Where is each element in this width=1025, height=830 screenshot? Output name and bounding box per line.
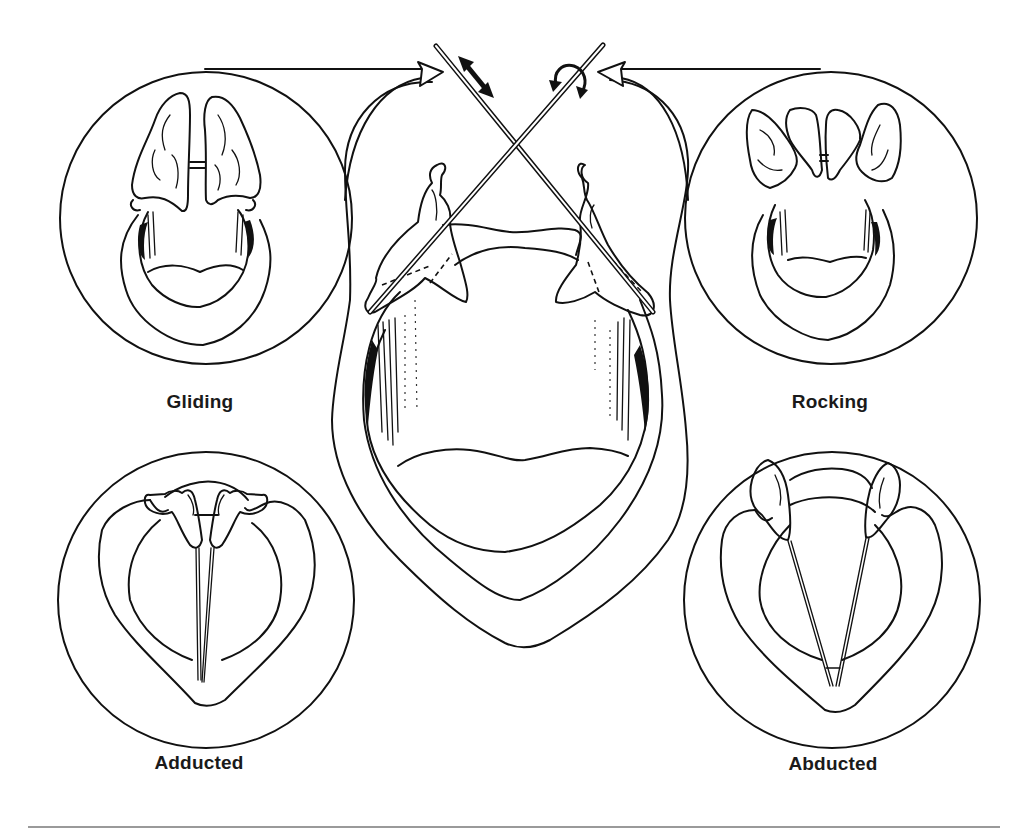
inset-abducted xyxy=(684,452,980,748)
inset-rocking xyxy=(685,72,977,364)
label-gliding: Gliding xyxy=(167,391,234,413)
inset-adducted xyxy=(58,452,354,748)
connector-arrows xyxy=(205,62,820,200)
inset-gliding xyxy=(60,72,352,364)
bottom-rule-divider xyxy=(28,826,1000,828)
larynx-diagram xyxy=(0,0,1025,830)
rod-gliding xyxy=(436,46,653,312)
label-adducted: Adducted xyxy=(154,752,243,774)
central-larynx-view xyxy=(332,45,688,647)
label-rocking: Rocking xyxy=(792,391,868,413)
label-abducted: Abducted xyxy=(788,753,877,775)
